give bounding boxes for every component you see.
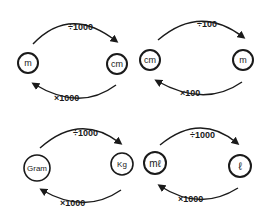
unit-node-label: cm: [144, 55, 156, 65]
diagram-m-cm: ÷1000 m cm ×1000: [18, 22, 127, 103]
multiply-label: ×100: [180, 88, 200, 98]
unit-node-label: mℓ: [149, 158, 161, 169]
unit-node-label: m: [24, 58, 32, 68]
unit-node-label: Kg: [117, 160, 127, 169]
multiply-label: ×1000: [54, 93, 79, 103]
unit-node-label: m: [239, 55, 247, 65]
divide-label: ÷1000: [68, 22, 93, 32]
unit-node-label: cm: [111, 59, 123, 69]
divide-label: ÷1000: [190, 130, 215, 140]
multiply-label: ×1000: [60, 198, 85, 208]
diagram-gram-kg: ÷1000 Gram Kg ×1000: [24, 128, 133, 208]
unit-node-label: Gram: [27, 164, 47, 173]
divide-label: ÷100: [197, 19, 217, 29]
diagram-ml-l: ÷1000 mℓ ℓ ×1000: [144, 128, 251, 204]
unit-node-label: ℓ: [238, 160, 242, 172]
divide-label: ÷1000: [73, 128, 98, 138]
diagram-cm-m: ÷100 cm m ×100: [140, 19, 253, 98]
unit-conversion-diagrams: ÷1000 m cm ×1000 ÷100 cm m ×100 ÷1000 Gr…: [0, 0, 270, 224]
multiply-label: ×1000: [178, 194, 203, 204]
